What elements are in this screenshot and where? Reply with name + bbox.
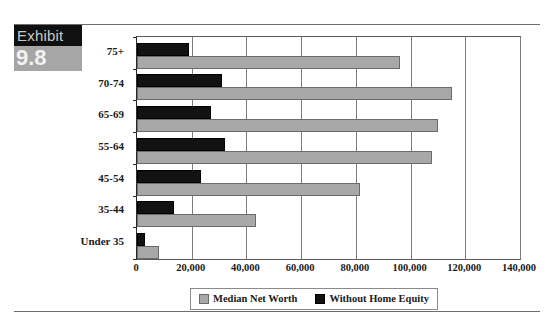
bar-without-home-equity [137,74,222,87]
y-axis-tick [133,69,137,70]
bar-without-home-equity [137,106,211,119]
x-axis-tick-label: 20,000 [176,262,205,273]
x-axis-tick-label: 40,000 [231,262,260,273]
chart-category-row [137,227,520,259]
y-axis-category-label: 70-74 [98,77,124,89]
y-axis-category-label: 65-69 [98,108,124,120]
bar-median-net-worth [137,119,438,132]
bar-median-net-worth [137,214,256,227]
chart-category-row [137,164,520,196]
chart-plot-area [136,36,521,260]
bar-without-home-equity [137,201,174,214]
bar-without-home-equity [137,233,145,246]
bar-median-net-worth [137,151,432,164]
bar-without-home-equity [137,138,225,151]
x-axis-tick-label: 120,000 [447,262,481,273]
x-axis-tick-label: 80,000 [340,262,369,273]
y-axis-tick [133,196,137,197]
y-axis-category-label: Under 35 [81,235,125,247]
bottom-rule [14,311,540,312]
y-axis-tick [133,259,137,260]
bar-median-net-worth [137,87,452,100]
bar-median-net-worth [137,183,360,196]
y-axis-tick [133,37,137,38]
chart-category-row [137,100,520,132]
y-axis-tick [133,227,137,228]
bar-median-net-worth [137,56,400,69]
y-axis-labels: 75+70-7465-6955-6445-5435-44Under 35 [50,36,130,258]
legend-label: Median Net Worth [213,293,297,304]
y-axis-category-label: 35-44 [98,203,124,215]
x-axis-tick-label: 140,000 [502,262,536,273]
gridline [520,37,521,259]
y-axis-tick [133,164,137,165]
bar-without-home-equity [137,170,201,183]
chart-category-row [137,196,520,228]
bar-without-home-equity [137,43,189,56]
chart-category-row [137,69,520,101]
x-axis-tick-label: 0 [133,262,138,273]
square-gray-swatch-icon [199,294,209,304]
y-axis-category-label: 75+ [107,45,124,57]
square-black-swatch-icon [315,294,325,304]
chart-legend: Median Net Worth Without Home Equity [190,288,438,310]
top-rule [14,24,540,25]
x-axis-tick-label: 100,000 [393,262,427,273]
chart-category-row [137,37,520,69]
bar-median-net-worth [137,246,159,259]
x-axis-tick-label: 60,000 [286,262,315,273]
y-axis-category-label: 45-54 [98,172,124,184]
y-axis-category-label: 55-64 [98,140,124,152]
legend-label: Without Home Equity [329,293,429,304]
y-axis-tick [133,132,137,133]
x-axis-labels: 020,00040,00060,00080,000100,000120,0001… [136,262,519,278]
legend-item-without-home-equity: Without Home Equity [315,293,429,304]
legend-item-median-net-worth: Median Net Worth [199,293,297,304]
chart-category-row [137,132,520,164]
y-axis-tick [133,100,137,101]
